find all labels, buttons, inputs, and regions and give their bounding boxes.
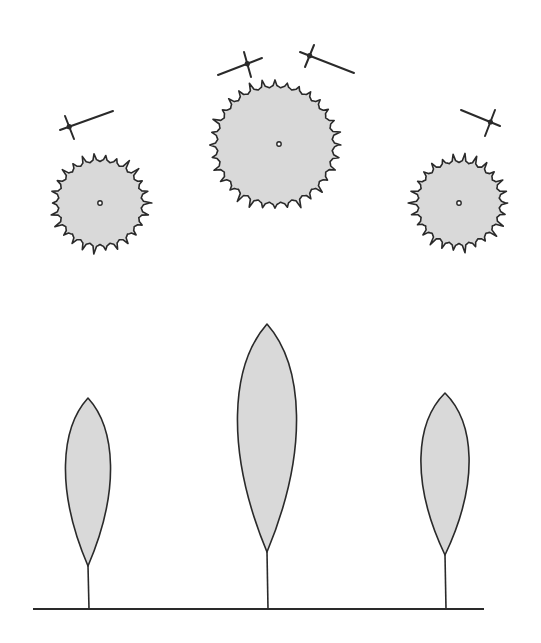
trunk	[88, 566, 89, 609]
elevation-tree-right	[421, 393, 469, 609]
trunk-center-icon	[98, 201, 102, 205]
diagram-canvas	[0, 0, 541, 643]
tree-diagram	[0, 0, 541, 643]
plan-tree-left-canopy	[51, 154, 152, 254]
canopy	[421, 393, 469, 555]
sun-marker-middle-right-icon	[300, 45, 354, 73]
trunk	[445, 555, 446, 609]
trunk-center-icon	[457, 201, 461, 205]
elevation-tree-middle	[237, 324, 296, 609]
trunk-center-icon	[277, 142, 281, 146]
sun-marker-right-icon	[461, 110, 500, 136]
canopy	[237, 324, 296, 552]
plan-tree-right-canopy	[408, 153, 507, 252]
canopy	[65, 398, 110, 566]
plan-view	[51, 80, 507, 254]
trunk	[267, 552, 268, 609]
sun-marker-left-icon	[60, 111, 113, 139]
elevation-view	[33, 324, 484, 609]
sun-marker-middle-left-icon	[218, 52, 262, 77]
elevation-tree-left	[65, 398, 110, 609]
plan-tree-middle-canopy	[210, 80, 341, 208]
